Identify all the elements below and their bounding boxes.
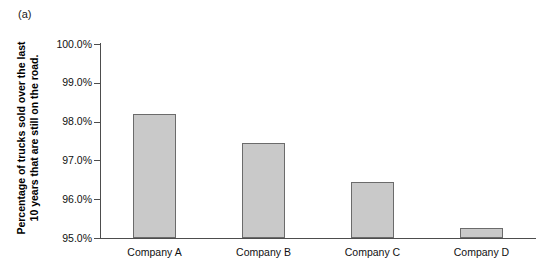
y-tick-label: 98.0% (36, 116, 92, 127)
x-axis-line (100, 238, 536, 239)
y-tick-mark (94, 122, 100, 123)
bar (351, 182, 394, 238)
y-tick-mark (94, 238, 100, 239)
y-tick-label: 99.0% (36, 77, 92, 88)
bar (133, 114, 176, 238)
y-tick-label: 96.0% (36, 194, 92, 205)
bar (242, 143, 285, 238)
y-tick-label-container: 96.0% (30, 194, 92, 205)
y-tick-label: 97.0% (36, 155, 92, 166)
x-tick-label: Company C (313, 246, 433, 258)
y-tick-label-container: 98.0% (30, 116, 92, 127)
x-tick-label: Company A (95, 246, 215, 258)
figure-panel-a: (a) Percentage of trucks sold over the l… (0, 0, 543, 276)
y-tick-mark (94, 160, 100, 161)
y-tick-label: 95.0% (36, 233, 92, 244)
y-tick-mark (94, 199, 100, 200)
y-tick-label-container: 95.0% (30, 233, 92, 244)
y-tick-label-container: 100.0% (30, 39, 92, 50)
y-tick-mark (94, 83, 100, 84)
y-tick-label: 100.0% (36, 39, 92, 50)
y-axis-line (100, 43, 101, 239)
x-tick-label: Company D (422, 246, 542, 258)
x-tick-label: Company B (204, 246, 324, 258)
y-axis-title: Percentage of trucks sold over the last … (15, 13, 41, 263)
bar (460, 228, 503, 238)
y-tick-mark (94, 44, 100, 45)
y-tick-label-container: 97.0% (30, 155, 92, 166)
y-tick-label-container: 99.0% (30, 77, 92, 88)
